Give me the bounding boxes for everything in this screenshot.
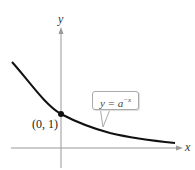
equation-exponent: −x (123, 96, 131, 104)
graph (0, 0, 195, 170)
y-axis-label: y (58, 12, 63, 27)
x-axis-label: x (185, 140, 190, 155)
equation-base: y = a (100, 97, 123, 109)
point-label: (0, 1) (32, 117, 58, 132)
x-axis-arrow-icon (176, 146, 183, 151)
y-axis-arrow-icon (59, 27, 64, 34)
equation-callout: y = a−x (92, 91, 139, 110)
point-0-1 (58, 111, 64, 117)
